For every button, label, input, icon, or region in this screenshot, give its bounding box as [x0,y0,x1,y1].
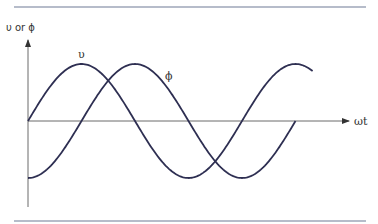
chart: υ or ϕ ωt υ ϕ [0,0,378,224]
x-axis-label: ωt [354,115,368,128]
series-label-v: υ [78,48,85,61]
y-axis-label: υ or ϕ [6,22,35,33]
series-label-phi: ϕ [165,70,173,83]
